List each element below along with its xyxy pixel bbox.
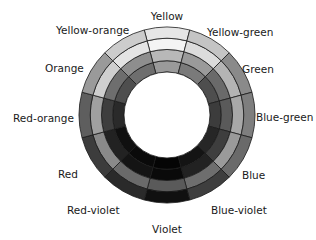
label-violet: Violet: [152, 223, 182, 235]
label-yellow: Yellow: [150, 10, 184, 22]
wheel-center-hole: [124, 72, 210, 158]
label-blue-violet: Blue-violet: [211, 204, 267, 216]
label-red-violet: Red-violet: [67, 204, 120, 216]
label-blue-green: Blue-green: [256, 111, 313, 123]
segment-yellow-ring-2: [150, 49, 184, 62]
segment-red-orange-ring-1: [113, 101, 126, 129]
label-green: Green: [242, 63, 274, 75]
segment-yellow-ring-1: [153, 61, 181, 74]
label-red: Red: [58, 168, 78, 180]
segment-violet-ring-3: [147, 178, 187, 191]
label-yellow-green: Yellow-green: [206, 26, 273, 38]
label-yellow-orange: Yellow-orange: [55, 24, 129, 36]
segment-red-orange-ring-2: [102, 98, 115, 132]
segment-blue-green-ring-2: [219, 98, 232, 132]
segment-yellow-ring-3: [147, 38, 187, 51]
label-orange: Orange: [45, 62, 84, 74]
segment-violet-ring-2: [150, 167, 184, 180]
segment-violet-ring-1: [153, 157, 181, 170]
segment-blue-green-ring-1: [209, 101, 222, 129]
label-blue: Blue: [242, 169, 265, 181]
wheel-segments: [79, 27, 255, 203]
segment-red-orange-ring-3: [90, 95, 103, 135]
color-wheel-diagram: YellowYellow-greenGreenBlue-greenBlueBlu…: [0, 0, 316, 240]
segment-blue-green-ring-3: [230, 95, 243, 135]
label-red-orange: Red-orange: [13, 112, 74, 124]
